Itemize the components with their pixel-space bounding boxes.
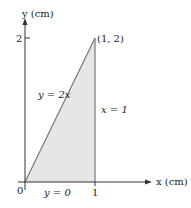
y-axis-arrow-icon <box>23 18 28 25</box>
y-axis-label: y (cm) <box>21 8 54 19</box>
vertex-label: (1, 2) <box>97 33 124 44</box>
diagonal-line-label: y = 2x <box>37 89 71 100</box>
vertical-line-label: x = 1 <box>101 104 128 115</box>
bottom-line-label: y = 0 <box>43 187 71 198</box>
origin-label: 0 <box>17 185 23 196</box>
y-tick-label: 2 <box>16 33 22 44</box>
diagram: y (cm) 2 x (cm) 0 1 (1, 2) y = 2x x = 1 … <box>0 0 191 208</box>
x-tick-label: 1 <box>92 187 98 198</box>
x-axis-label: x (cm) <box>156 176 188 187</box>
x-axis-arrow-icon <box>145 180 152 185</box>
